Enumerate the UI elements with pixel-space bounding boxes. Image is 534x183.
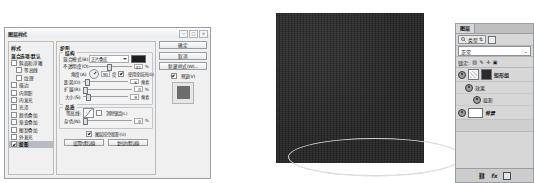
eye-icon[interactable]	[465, 84, 473, 92]
eye-icon[interactable]	[458, 71, 466, 79]
new-style-button[interactable]: 新建样式(W)...	[159, 62, 207, 70]
minimize-icon[interactable]: —	[179, 30, 188, 38]
checkbox-icon[interactable]	[11, 104, 17, 110]
fx-icon[interactable]: fx	[491, 172, 497, 179]
anti-alias-checkbox[interactable]: 消除锯齿(L)	[96, 110, 127, 116]
link-icon[interactable]: ⛓	[478, 172, 486, 179]
effects-label: 效果	[475, 84, 485, 91]
style-item-gradient-overlay[interactable]: 渐变叠加	[9, 119, 53, 126]
move-lock-icon[interactable]: ✛	[486, 59, 490, 65]
checkbox-icon[interactable]	[11, 82, 17, 88]
opacity-input[interactable]: 42	[134, 64, 143, 70]
noise-input[interactable]: 0	[134, 118, 143, 124]
reset-default-button[interactable]: 复位为默认值	[108, 139, 148, 147]
eye-icon[interactable]	[458, 109, 466, 117]
updown-arrows-icon: ⇅	[479, 37, 483, 42]
style-item-inner-glow[interactable]: 内发光	[9, 96, 53, 103]
artboard[interactable]	[276, 13, 424, 163]
checkbox-icon[interactable]	[11, 141, 17, 147]
noise-slider[interactable]	[83, 118, 132, 124]
style-item-outer-glow[interactable]: 外发光	[9, 133, 53, 140]
style-item-label: 内阴影	[19, 90, 33, 96]
set-default-button[interactable]: 设置为默认值	[64, 139, 104, 147]
style-item-blending-options[interactable]: 混合选项:默认	[9, 52, 53, 59]
spread-row: 扩展(R): 0 %	[63, 85, 149, 93]
transparency-lock-icon[interactable]: ▨	[472, 59, 477, 65]
spread-input[interactable]: 0	[134, 86, 143, 92]
checkbox-icon[interactable]	[86, 131, 92, 137]
blend-mode-select[interactable]: 正片叠底	[89, 55, 129, 63]
ok-button[interactable]: 确定	[159, 41, 207, 49]
brush-lock-icon[interactable]: ✎	[479, 59, 483, 65]
checkbox-icon[interactable]	[11, 60, 17, 66]
angle-row: 角度(A): 90 度 使用全局光(G)	[63, 70, 149, 78]
shadow-color-swatch[interactable]	[131, 55, 146, 63]
style-item-bevel-emboss[interactable]: 斜面和浮雕	[9, 59, 53, 66]
slider-thumb[interactable]	[107, 64, 112, 71]
checkbox-icon[interactable]	[11, 112, 17, 118]
contour-preset-thumbnail[interactable]	[83, 108, 94, 118]
checkbox-icon[interactable]	[171, 73, 177, 79]
distance-slider[interactable]	[83, 79, 128, 85]
layer-thumbnail[interactable]	[468, 108, 483, 118]
style-item-label: 内发光	[19, 97, 33, 103]
mask-icon[interactable]	[503, 172, 511, 180]
checkbox-icon[interactable]	[11, 127, 17, 133]
checkbox-icon[interactable]	[16, 67, 22, 73]
maximize-icon[interactable]: □	[189, 30, 198, 38]
layer-thumbnail[interactable]	[481, 69, 492, 80]
ellipse-selection-marquee[interactable]	[288, 138, 462, 176]
style-item-contour[interactable]: 等高线	[9, 67, 53, 74]
layer-blend-mode-select[interactable]: 正常 ⌄	[458, 46, 531, 56]
noise-label: 杂色(N):	[63, 118, 81, 124]
style-item-label: 光泽	[19, 104, 28, 110]
checkbox-icon[interactable]	[11, 134, 17, 140]
table-row[interactable]: 矩形组	[456, 68, 533, 82]
slider-thumb[interactable]	[85, 79, 90, 86]
slider-thumb[interactable]	[86, 94, 91, 101]
close-icon[interactable]: ×	[199, 30, 208, 38]
style-item-pattern-overlay[interactable]: 图案叠加	[9, 126, 53, 133]
use-global-light-checkbox[interactable]: 使用全局光(G)	[118, 71, 154, 77]
distance-input[interactable]: 6	[130, 79, 139, 85]
checkbox-icon[interactable]	[96, 110, 102, 116]
layer-filter-row: 类型 ⇅	[456, 34, 533, 46]
layers-panel-tabs: 图层	[456, 24, 533, 34]
contour-row: 等高线: 消除锯齿(L)	[63, 110, 149, 118]
angle-dial[interactable]	[89, 69, 99, 79]
layer-filter-type-select[interactable]: 类型 ⇅	[458, 35, 486, 45]
checkbox-icon[interactable]	[11, 90, 17, 96]
size-slider[interactable]	[83, 94, 128, 100]
slider-thumb[interactable]	[83, 118, 88, 125]
style-item-stroke[interactable]: 描边	[9, 82, 53, 89]
checkbox-icon[interactable]	[118, 71, 124, 77]
distance-label: 距离(D):	[63, 79, 81, 85]
filter-kind-pixel-icon[interactable]	[488, 36, 496, 44]
checkbox-icon[interactable]	[11, 97, 17, 103]
style-item-inner-shadow[interactable]: 内阴影	[9, 89, 53, 96]
knockout-checkbox[interactable]: 图层挖空投影(U)	[59, 131, 153, 137]
style-item-color-overlay[interactable]: 颜色叠加	[9, 111, 53, 118]
size-input[interactable]: 9	[130, 94, 139, 100]
tab-layers[interactable]: 图层	[456, 24, 475, 33]
eye-icon[interactable]	[473, 96, 481, 104]
layer-mask-thumbnail[interactable]	[468, 69, 479, 80]
style-item-texture[interactable]: 纹理	[9, 74, 53, 81]
table-row[interactable]: 背景	[456, 106, 533, 120]
checkbox-icon[interactable]	[16, 75, 22, 81]
list-item[interactable]: 效果	[456, 82, 533, 94]
all-lock-icon[interactable]: ▣	[493, 59, 498, 65]
quality-fieldset: 品质 等高线: 消除锯齿(L)	[59, 107, 153, 129]
opacity-row: 不透明度(O): 42 %	[63, 63, 149, 71]
preview-checkbox[interactable]: 预览(V)	[159, 73, 207, 79]
slider-thumb[interactable]	[83, 87, 88, 94]
distance-unit: 像素	[141, 79, 149, 85]
spread-slider[interactable]	[83, 86, 132, 92]
style-item-satin[interactable]: 光泽	[9, 104, 53, 111]
cancel-button[interactable]: 取消	[159, 52, 207, 60]
angle-input[interactable]: 90	[101, 71, 110, 77]
checkbox-icon[interactable]	[11, 119, 17, 125]
style-item-label: 渐变叠加	[19, 119, 38, 125]
list-item[interactable]: 投影	[456, 94, 533, 106]
style-item-drop-shadow[interactable]: 投影	[9, 141, 53, 148]
